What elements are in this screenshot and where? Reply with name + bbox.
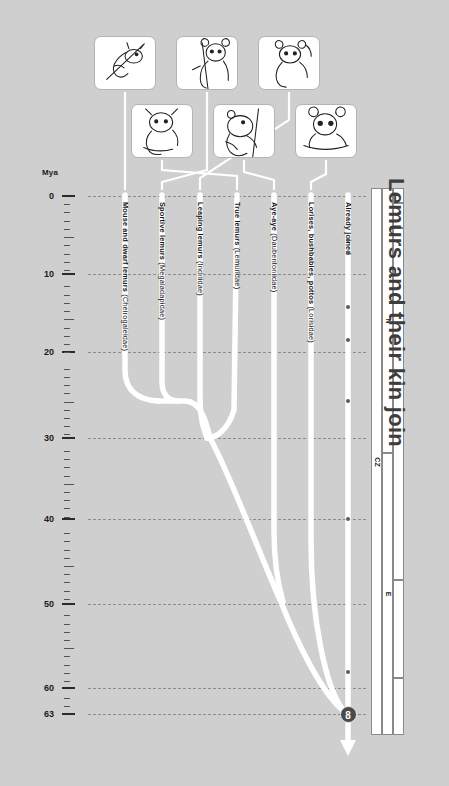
axis-minor-tick — [64, 262, 70, 263]
axis-minor-tick — [64, 558, 70, 559]
gridline-40-mya — [88, 519, 366, 520]
sportive-lemur-illustration[interactable] — [176, 36, 238, 90]
clade-scientific-name: (Lorisidae) — [307, 306, 316, 343]
axis-minor-tick — [64, 434, 70, 435]
axis-minor-tick — [64, 237, 74, 238]
axis-tick-label-10: 10 — [28, 269, 54, 279]
axis-tick-label-50: 50 — [28, 599, 54, 609]
clade-label-lorisidae: Lorises, bushbabies, pottos (Lorisidae) — [307, 202, 316, 343]
clade-scientific-name: (Lemuridae) — [233, 248, 242, 290]
node-marker-8[interactable]: 8 — [340, 706, 357, 723]
axis-tick-label-20: 20 — [28, 347, 54, 357]
axis-tick-label-0: 0 — [28, 191, 54, 201]
axis-minor-tick — [64, 624, 70, 625]
gridline-0-mya — [88, 196, 366, 197]
gridline-60-mya — [88, 688, 366, 689]
axis-minor-tick — [64, 681, 70, 682]
branch-node-c-stem — [281, 602, 345, 712]
clade-common-name: Aye-aye — [270, 202, 279, 233]
fossil-dot — [346, 517, 350, 521]
axis-minor-tick — [64, 615, 70, 616]
axis-minor-tick — [64, 467, 70, 468]
clade-common-name: Leaping lemurs — [196, 202, 205, 261]
clade-label-lemuridae: True lemurs (Lemuridae) — [233, 202, 242, 289]
phylogeny-infographic: Mya 010203040506063 — [0, 0, 449, 786]
axis-minor-tick — [64, 221, 70, 222]
geo-era-label: CZ — [371, 447, 383, 476]
gridline-50-mya — [88, 604, 366, 605]
axis-minor-tick — [64, 541, 70, 542]
clade-scientific-name: (Indriidae) — [196, 261, 205, 296]
axis-minor-tick — [64, 344, 70, 345]
clade-label-cheirogaleidae: Mouse and dwarf lemurs (Cheirogaleidae) — [121, 202, 130, 351]
indri-illustration[interactable] — [258, 36, 320, 90]
axis-minor-tick — [64, 459, 70, 460]
axis-minor-tick — [64, 706, 70, 707]
clade-common-name: Sportive lemurs — [158, 202, 167, 262]
geo-epoch-segment — [393, 580, 404, 678]
clade-scientific-name: (Cheirogaleidae) — [121, 294, 130, 351]
axis-minor-tick — [64, 328, 70, 329]
axis-tick-label-40: 40 — [28, 514, 54, 524]
axis-minor-tick — [64, 426, 70, 427]
axis-minor-tick — [64, 393, 70, 394]
true-lemur-illustration[interactable] — [131, 104, 193, 158]
axis-minor-tick — [64, 385, 70, 386]
axis-minor-tick — [64, 656, 70, 657]
fossil-dot — [346, 670, 350, 674]
fossil-dot — [346, 399, 350, 403]
clade-common-name: Mouse and dwarf lemurs — [121, 202, 130, 294]
axis-minor-tick — [64, 254, 70, 255]
fossil-dot — [346, 305, 350, 309]
connector-lemuridae — [162, 160, 237, 190]
axis-minor-tick — [64, 311, 70, 312]
fossil-dot — [346, 338, 350, 342]
connector-lorisidae — [311, 160, 326, 190]
axis-minor-tick — [64, 451, 70, 452]
mouse-lemur-illustration[interactable] — [94, 36, 156, 90]
axis-unit-label: Mya — [42, 168, 58, 177]
axis-tick-30 — [62, 437, 75, 439]
clade-label-indriidae: Leaping lemurs (Indriidae) — [196, 202, 205, 296]
axis-tick-40 — [62, 518, 75, 520]
axis-minor-tick — [64, 648, 74, 649]
axis-minor-tick — [64, 204, 70, 205]
geo-period-label: E — [382, 580, 394, 609]
axis-minor-tick — [64, 574, 70, 575]
axis-minor-tick — [64, 566, 74, 567]
clade-common-name: Lorises, bushbabies, pottos — [307, 202, 316, 306]
axis-minor-tick — [64, 492, 70, 493]
gridline-63-mya — [88, 714, 366, 715]
axis-minor-tick — [64, 550, 70, 551]
axis-minor-tick — [64, 303, 70, 304]
fossil-dot — [346, 251, 350, 255]
axis-minor-tick — [64, 245, 70, 246]
clade-label-megaladapidae: Sportive lemurs (Megaladapidae) — [158, 202, 167, 320]
aye-aye-illustration[interactable] — [213, 104, 275, 158]
clade-label-already-joined: Already joined — [344, 202, 353, 255]
page-title: Lemurs and their kin join — [383, 178, 409, 447]
axis-tick-label-60: 60 — [28, 683, 54, 693]
axis-minor-tick — [64, 484, 74, 485]
loris-illustration[interactable] — [295, 104, 357, 158]
clade-scientific-name: (Megaladapidae) — [158, 262, 167, 320]
axis-tick-label-30: 30 — [28, 433, 54, 443]
axis-minor-tick — [64, 402, 74, 403]
clade-label-daubentoniidae: Aye-aye (Daubentoniidae) — [270, 202, 279, 292]
axis-tick-60 — [62, 687, 75, 689]
axis-minor-tick — [64, 500, 70, 501]
geo-epoch-segment — [393, 678, 404, 735]
axis-minor-tick — [64, 212, 70, 213]
axis-minor-tick — [64, 229, 70, 230]
axis-minor-tick — [64, 640, 70, 641]
axis-minor-tick — [64, 319, 74, 320]
axis-tick-10 — [62, 273, 75, 275]
axis-minor-tick — [64, 591, 70, 592]
axis-minor-tick — [64, 665, 70, 666]
axis-minor-tick — [64, 336, 70, 337]
gridline-30-mya — [88, 438, 366, 439]
clade-common-name: Already joined — [344, 202, 353, 255]
branch-node-a-stem — [158, 401, 210, 438]
axis-minor-tick — [64, 410, 70, 411]
gridline-20-mya — [88, 352, 366, 353]
